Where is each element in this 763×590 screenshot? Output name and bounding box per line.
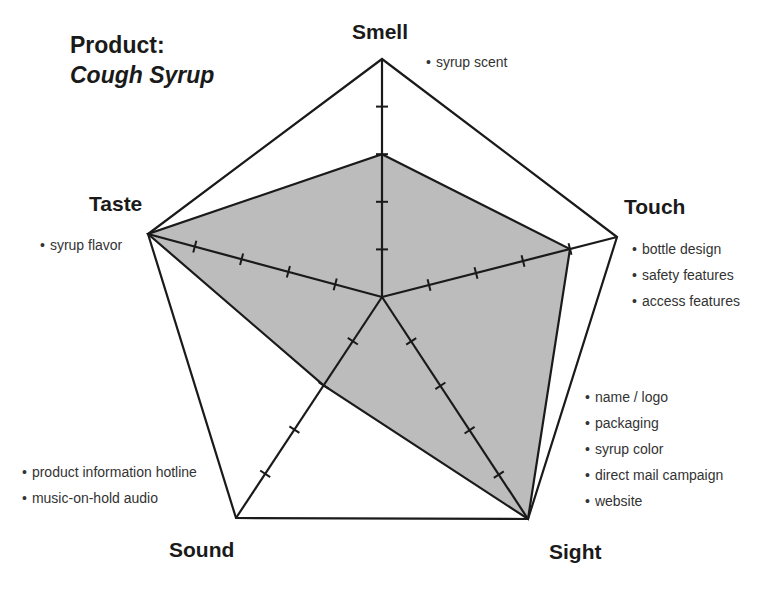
note-item: bottle design [632, 236, 740, 262]
note-item: safety features [632, 262, 740, 288]
note-item: name / logo [585, 384, 723, 410]
axis-label-sound: Sound [169, 538, 234, 562]
notes-sound: product information hotline music-on-hol… [22, 459, 197, 511]
note-item: syrup flavor [40, 232, 122, 258]
note-item: packaging [585, 410, 723, 436]
note-item: website [585, 488, 723, 514]
tick-mark [289, 426, 299, 433]
notes-taste: syrup flavor [40, 232, 122, 258]
note-item: music-on-hold audio [22, 485, 197, 511]
axis-label-sight: Sight [549, 540, 602, 564]
note-item: syrup scent [426, 49, 508, 75]
note-item: direct mail campaign [585, 462, 723, 488]
note-item: product information hotline [22, 459, 197, 485]
notes-touch: bottle design safety features access fea… [632, 236, 740, 314]
note-item: syrup color [585, 436, 723, 462]
tick-mark [260, 470, 270, 477]
axis-label-touch: Touch [624, 195, 685, 219]
axis-label-taste: Taste [89, 192, 142, 216]
notes-smell: syrup scent [426, 49, 508, 75]
note-item: access features [632, 288, 740, 314]
axis-label-smell: Smell [352, 20, 408, 44]
value-polygon [148, 154, 570, 519]
notes-sight: name / logo packaging syrup color direct… [585, 384, 723, 514]
